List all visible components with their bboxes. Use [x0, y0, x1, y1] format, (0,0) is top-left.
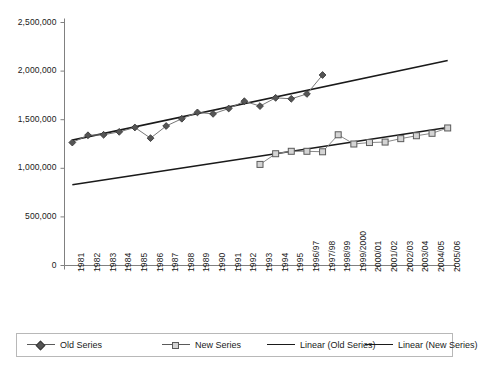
data-point-marker-square: [445, 125, 451, 131]
y-axis-tick-label: 1,000,000: [0, 162, 57, 172]
x-axis-tick-label: 1996/97: [311, 240, 321, 271]
x-axis-tick-label: 1997/98: [327, 240, 337, 271]
data-point-marker-square: [335, 132, 341, 138]
y-axis-tick-label: 2,500,000: [0, 17, 57, 27]
legend-item-label: Linear (New Series): [398, 340, 478, 350]
x-axis-tick-label: 2000/01: [373, 240, 383, 271]
legend-swatch-square-icon: [162, 339, 190, 351]
y-axis-tick-label: 0: [0, 260, 57, 270]
legend-swatch-diamond-icon: [27, 339, 55, 351]
legend-item-old-series[interactable]: Old Series: [27, 334, 102, 356]
legend-swatch-line: [267, 344, 295, 345]
data-point-marker-square: [429, 130, 435, 136]
x-axis-tick-label: 1992: [248, 252, 258, 271]
x-axis-tick-label: 2005/06: [452, 240, 462, 271]
x-axis-tick-label: 2001/02: [389, 240, 399, 271]
x-axis-tick-label: 2002/03: [405, 240, 415, 271]
x-axis-tick-label: 1984: [123, 252, 133, 271]
x-axis-tick-label: 1981: [76, 252, 86, 271]
legend-item-label: Old Series: [60, 340, 102, 350]
y-axis-tick-label: 500,000: [0, 211, 57, 221]
data-point-marker-square: [413, 133, 419, 139]
x-axis-tick-label: 1987: [170, 252, 180, 271]
x-axis-tick-label: 1989: [201, 252, 211, 271]
x-axis-tick-label: 1993: [264, 252, 274, 271]
x-axis-tick-label: 2004/05: [436, 240, 446, 271]
data-point-marker-square: [366, 140, 372, 146]
trendline-old-series: [72, 60, 447, 140]
data-point-marker-square: [382, 139, 388, 145]
chart-legend: Old SeriesNew SeriesLinear (Old Series)L…: [16, 333, 453, 357]
data-point-marker-square: [351, 141, 357, 147]
x-axis-tick-label: 1991: [233, 252, 243, 271]
x-axis-tick-label: 1988: [186, 252, 196, 271]
x-axis-tick-label: 1999/2000: [358, 230, 368, 271]
diamond-marker-icon: [36, 340, 46, 350]
data-point-marker-square: [320, 149, 326, 155]
data-point-marker-square: [273, 151, 279, 157]
data-point-marker-square: [257, 161, 263, 167]
trendline-new-series: [72, 127, 447, 184]
x-axis-tick-label: 1995: [295, 252, 305, 271]
square-marker-icon: [172, 342, 179, 349]
x-axis-tick-label: 1983: [108, 252, 118, 271]
x-axis-tick-label: 1985: [139, 252, 149, 271]
data-point-marker-diamond: [257, 103, 264, 110]
y-axis-tick-label: 2,000,000: [0, 65, 57, 75]
legend-item-new-series[interactable]: New Series: [162, 334, 241, 356]
x-axis-tick-label: 1994: [280, 252, 290, 271]
legend-swatch-line: [365, 344, 393, 345]
legend-swatch-line-icon: [365, 339, 393, 351]
data-point-marker-diamond: [131, 124, 138, 131]
x-axis-tick-label: 1982: [92, 252, 102, 271]
x-axis-tick-label: 1986: [155, 252, 165, 271]
data-point-marker-square: [398, 136, 404, 142]
x-axis-tick-label: 1998/99: [342, 240, 352, 271]
data-point-marker-square: [288, 148, 294, 154]
x-axis-tick-label: 1990: [217, 252, 227, 271]
y-axis-tick-label: 1,500,000: [0, 114, 57, 124]
data-point-marker-diamond: [272, 94, 279, 101]
data-point-marker-square: [304, 148, 310, 154]
legend-swatch-line-icon: [267, 339, 295, 351]
legend-item-linear-old-series[interactable]: Linear (Old Series): [267, 334, 376, 356]
legend-item-linear-new-series[interactable]: Linear (New Series): [365, 334, 478, 356]
legend-item-label: New Series: [195, 340, 241, 350]
x-axis-tick-label: 2003/04: [420, 240, 430, 271]
data-point-marker-diamond: [288, 95, 295, 102]
